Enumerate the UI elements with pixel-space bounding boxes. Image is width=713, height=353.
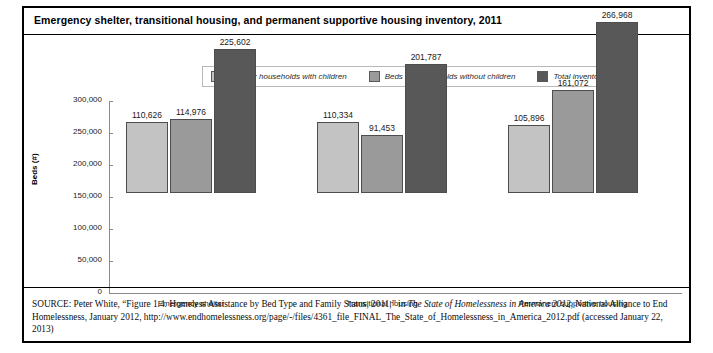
y-axis-title: Beds (#): [30, 153, 39, 185]
y-axis-tick: 100,000: [109, 229, 113, 230]
x-axis-line: [109, 293, 682, 294]
bar-group-transitional-housing: 110,334 91,453 201,787: [317, 1, 467, 193]
y-axis-tick-label: 0: [98, 287, 102, 296]
bar-value-label: 114,976: [176, 107, 206, 117]
bar-value-label: 110,334: [323, 110, 353, 120]
bar-value-label: 161,072: [558, 78, 589, 88]
y-axis-tick: 0: [109, 293, 113, 294]
y-axis-tick-label: 50,000: [78, 255, 102, 264]
bar-value-label: 201,787: [411, 52, 442, 62]
source-divider: [24, 287, 689, 288]
source-text-part1: Peter White, “Figure 1.4. Homeless Assis…: [71, 299, 407, 309]
y-axis-tick-label: 250,000: [73, 127, 102, 136]
figure-frame: Emergency shelter, transitional housing,…: [22, 6, 691, 343]
bar-value-label: 110,626: [132, 110, 162, 120]
bar[interactable]: 91,453: [361, 135, 403, 194]
bar-value-label: 266,968: [602, 10, 633, 20]
bar[interactable]: 161,072: [552, 90, 594, 193]
bar-group-permanent-supportive-housing: 105,896 161,072 266,968: [508, 1, 658, 193]
bar-value-label: 225,602: [220, 37, 251, 47]
bar[interactable]: 110,334: [317, 122, 359, 193]
bar-group-emergency-shelter: 110,626 114,976 225,602: [126, 1, 276, 193]
y-axis-tick: 50,000: [109, 261, 113, 262]
figure-root: Emergency shelter, transitional housing,…: [0, 0, 713, 353]
y-axis-tick: 250,000: [109, 133, 113, 134]
bar[interactable]: 105,896: [508, 125, 550, 193]
y-axis-tick: 300,000: [109, 101, 113, 102]
bar[interactable]: 201,787: [405, 64, 447, 193]
y-axis-tick: 150,000: [109, 197, 113, 198]
y-axis-tick-label: 100,000: [73, 223, 102, 232]
source-note: SOURCE: Peter White, “Figure 1.4. Homele…: [32, 298, 681, 335]
bar[interactable]: 225,602: [214, 49, 256, 193]
bar[interactable]: 110,626: [126, 122, 168, 193]
y-axis-tick-label: 150,000: [73, 191, 102, 200]
bar-value-label: 105,896: [514, 113, 545, 123]
bar-value-label: 91,453: [369, 123, 395, 133]
y-axis-tick-label: 200,000: [73, 159, 102, 168]
source-title-italic: The State of Homelessness in America 201…: [408, 299, 571, 309]
source-label: SOURCE:: [32, 299, 71, 309]
y-axis-tick: 200,000: [109, 165, 113, 166]
y-axis-tick-label: 300,000: [73, 95, 102, 104]
plot-area: Beds for households with children Beds f…: [24, 35, 689, 288]
bar[interactable]: 114,976: [170, 119, 212, 193]
bar[interactable]: 266,968: [596, 22, 638, 193]
